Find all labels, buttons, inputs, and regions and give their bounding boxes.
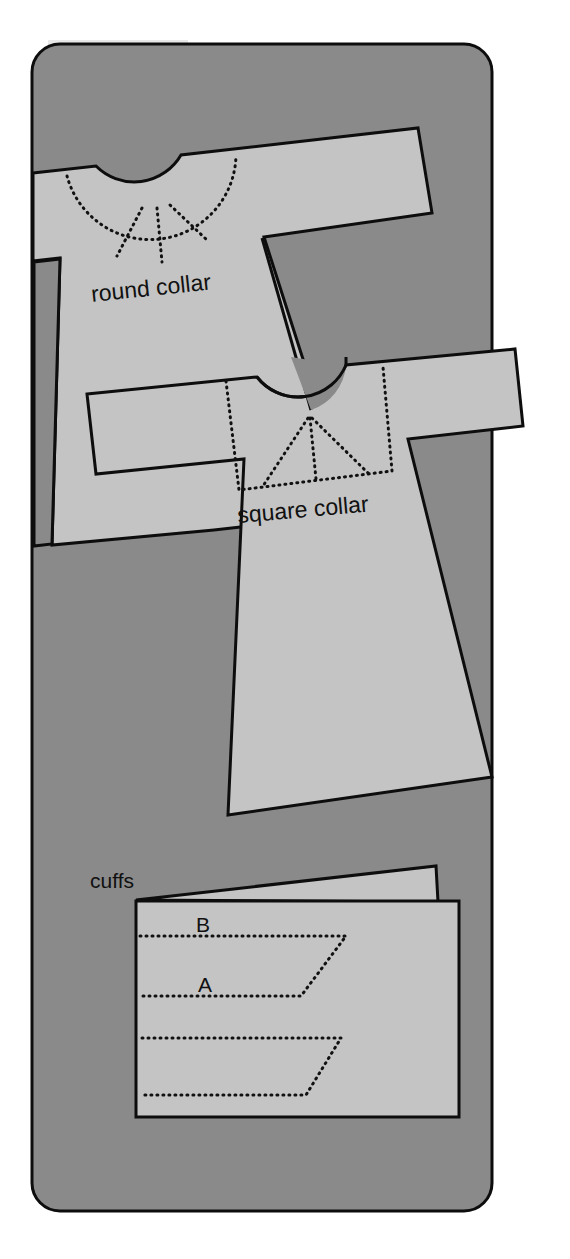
cuffs-fabric [136, 901, 459, 1117]
sewing-pattern-figure: round collar square collar cuffs B A [0, 0, 570, 1259]
cuff-label-b: B [196, 913, 210, 936]
cuffs-title: cuffs [90, 869, 134, 892]
cuff-label-a: A [198, 973, 212, 996]
cuffs-pattern: cuffs B A [90, 866, 459, 1117]
